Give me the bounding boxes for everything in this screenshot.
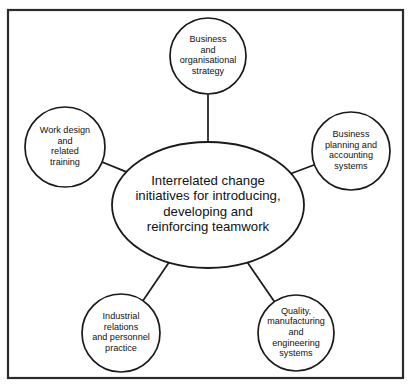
node-quality-manufacturing-and-engineering-systems[interactable]: Quality,manufacturingandengineeringsyste… (258, 295, 334, 371)
diagram-canvas: BusinessandorganisationalstrategyBusines… (0, 0, 412, 390)
diagram-svg: BusinessandorganisationalstrategyBusines… (0, 0, 412, 390)
node-business-planning-and-accounting-systems[interactable]: Businessplanning andaccountingsystems (312, 112, 390, 190)
central-hub-group: Interrelated changeinitiatives for intro… (112, 142, 304, 268)
node-business-and-organisational-strategy[interactable]: Businessandorganisationalstrategy (170, 18, 246, 94)
node-work-design-and-related-training[interactable]: Work designandrelatedtraining (25, 107, 105, 187)
hub-interrelated-change-initiatives[interactable]: Interrelated changeinitiatives for intro… (112, 142, 304, 268)
node-industrial-relations-and-personnel-practice[interactable]: Industrialrelationsand personnelpractice (82, 294, 160, 372)
